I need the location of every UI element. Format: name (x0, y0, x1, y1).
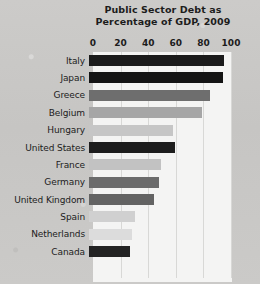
bar-united-states (89, 142, 175, 153)
bar-track (89, 226, 228, 243)
bar-row: Italy (0, 52, 260, 69)
category-label-japan: Japan (0, 73, 89, 83)
bar-row: Spain (0, 208, 260, 225)
x-tick-label-40: 40 (142, 38, 155, 48)
category-label-greece: Greece (0, 90, 89, 100)
x-tick-label-80: 80 (197, 38, 210, 48)
category-label-germany: Germany (0, 177, 89, 187)
bar-row: Canada (0, 243, 260, 260)
bar-track (89, 104, 228, 121)
bar-row: France (0, 156, 260, 173)
bar-canada (89, 246, 130, 257)
bar-netherlands (89, 229, 132, 240)
bar-row: Belgium (0, 104, 260, 121)
bar-japan (89, 72, 223, 83)
bar-row: United States (0, 139, 260, 156)
bar-belgium (89, 107, 202, 118)
chart-title-line-2: Percentage of GDP, 2009 (70, 16, 256, 28)
category-label-united-kingdom: United Kingdom (0, 195, 89, 205)
chart-title-line-1: Public Sector Debt as (70, 4, 256, 16)
bar-row: Japan (0, 69, 260, 86)
bar-track (89, 174, 228, 191)
bar-track (89, 139, 228, 156)
bar-row: Greece (0, 87, 260, 104)
category-label-france: France (0, 160, 89, 170)
category-label-netherlands: Netherlands (0, 229, 89, 239)
bar-hungary (89, 125, 173, 136)
bar-track (89, 87, 228, 104)
x-tick-label-20: 20 (114, 38, 127, 48)
x-tick-label-60: 60 (170, 38, 183, 48)
category-label-united-states: United States (0, 143, 89, 153)
category-label-canada: Canada (0, 247, 89, 257)
x-tick-label-0: 0 (90, 38, 96, 48)
category-label-italy: Italy (0, 56, 89, 66)
bar-track (89, 156, 228, 173)
bar-greece (89, 90, 210, 101)
bar-united-kingdom (89, 194, 154, 205)
bar-track (89, 208, 228, 225)
bar-track (89, 69, 228, 86)
bar-row: United Kingdom (0, 191, 260, 208)
x-tick-label-100: 100 (222, 38, 241, 48)
bar-spain (89, 211, 135, 222)
bar-row: Germany (0, 174, 260, 191)
bar-track (89, 191, 228, 208)
bar-row: Hungary (0, 122, 260, 139)
bar-track (89, 52, 228, 69)
plot-area-bottom-padding (93, 278, 232, 282)
bar-italy (89, 55, 224, 66)
bar-germany (89, 177, 159, 188)
bar-rows: ItalyJapanGreeceBelgiumHungaryUnited Sta… (0, 52, 260, 278)
chart-figure: Public Sector Debt as Percentage of GDP,… (0, 0, 260, 284)
x-axis-tick-labels: 020406080100 (93, 38, 231, 50)
bar-row: Netherlands (0, 226, 260, 243)
category-label-belgium: Belgium (0, 108, 89, 118)
category-label-spain: Spain (0, 212, 89, 222)
bar-track (89, 122, 228, 139)
bar-france (89, 159, 161, 170)
bar-track (89, 243, 228, 260)
chart-title: Public Sector Debt as Percentage of GDP,… (70, 4, 256, 28)
category-label-hungary: Hungary (0, 125, 89, 135)
